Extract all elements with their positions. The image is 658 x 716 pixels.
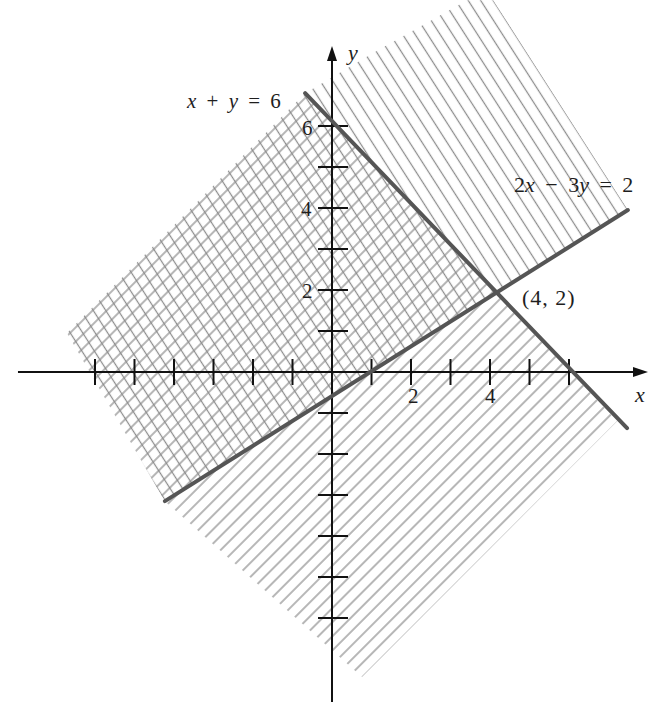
- line-label-x-plus-y-eq-6: x + y = 6: [187, 91, 281, 112]
- y-tick-label-4: 4: [301, 199, 312, 220]
- x-tick-label-2: 2: [408, 386, 419, 407]
- x-axis-label: x: [635, 384, 645, 406]
- plot-canvas: [0, 0, 658, 716]
- y-tick-label-6: 6: [302, 118, 313, 139]
- y-tick-label-2: 2: [302, 281, 313, 302]
- y-axis-label: y: [348, 42, 358, 64]
- y-axis-arrowhead-icon: [327, 46, 337, 61]
- x-tick-label-4: 4: [485, 386, 496, 407]
- line-label-2x-minus-3y-eq-2: 2x − 3y = 2: [514, 174, 633, 196]
- x-axis-arrowhead-icon: [633, 367, 648, 377]
- intersection-point-label: (4, 2): [522, 287, 576, 309]
- inequality-graph: x + y = 6 2x − 3y = 2 (4, 2) x y 6 4 2 2…: [0, 0, 658, 716]
